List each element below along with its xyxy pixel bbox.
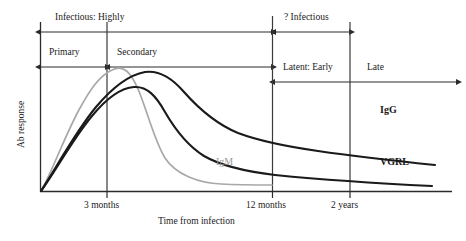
band-label-late: Late [367,63,384,73]
curve-igm [41,68,272,191]
band-label-infectious-question: ? Infectious [284,13,329,23]
curve-igg [41,72,435,191]
curve-label-vgrl: VGRL [380,157,409,167]
band-label-infectious-highly: Infectious: Highly [55,13,124,23]
x-tick-label-3-months: 3 months [84,201,119,211]
band-label-primary: Primary [49,48,80,58]
chart-figure: Ab response Infectious: Highly ? Infecti… [0,0,466,241]
x-tick-label-2-years: 2 years [331,201,358,211]
band-label-latent-early: Latent: Early [283,63,333,73]
x-tick-label-12-months: 12 months [246,201,286,211]
curve-label-igm: IgM [216,157,233,167]
band-label-secondary: Secondary [117,48,157,58]
chart-canvas [0,0,466,241]
curve-label-igg: IgG [380,105,397,115]
y-axis-title: Ab response [16,101,26,148]
x-axis-title: Time from infection [158,217,235,227]
